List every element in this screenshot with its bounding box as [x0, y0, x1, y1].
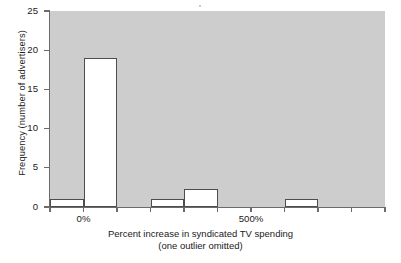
- x-axis-tick: [384, 207, 385, 212]
- y-axis-tick-label: 25: [16, 6, 38, 16]
- x-axis-title-line2: (one outlier omitted): [0, 240, 401, 252]
- x-axis-tick: [284, 207, 285, 212]
- x-axis-tick: [116, 207, 117, 212]
- y-axis-tick-label: 0: [16, 202, 38, 212]
- y-axis-tick-label: 5: [16, 162, 38, 172]
- x-axis-title-line1: Percent increase in syndicated TV spendi…: [0, 228, 401, 240]
- x-axis-tick: [183, 207, 184, 212]
- histogram-figure: Frequency (number of advertisers) 051015…: [0, 0, 401, 263]
- x-axis-tick: [49, 207, 50, 212]
- x-axis-tick-label: 500%: [221, 213, 281, 224]
- y-axis-tick-label: 20: [16, 45, 38, 55]
- x-axis-tick: [250, 207, 251, 212]
- x-axis-tick: [351, 207, 352, 212]
- x-axis-tick: [83, 207, 84, 212]
- x-axis-title: Percent increase in syndicated TV spendi…: [0, 228, 401, 253]
- x-axis-tick: [150, 207, 151, 212]
- y-axis-tick-group: 0510152025: [0, 0, 50, 263]
- page-speck: [199, 5, 201, 7]
- y-axis-tick-label: 10: [16, 123, 38, 133]
- histogram-bar: [84, 58, 118, 207]
- y-axis-tick-label: 15: [16, 84, 38, 94]
- histogram-bar: [184, 189, 218, 207]
- x-axis-tick: [217, 207, 218, 212]
- x-axis-tick-label: 0%: [54, 213, 114, 224]
- x-axis-tick: [317, 207, 318, 212]
- plot-area: [50, 11, 385, 207]
